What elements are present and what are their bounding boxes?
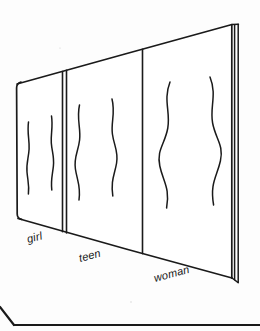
silhouette-board-figure: girl teen woman [0, 0, 260, 331]
figure-root: girl teen woman [0, 0, 260, 331]
